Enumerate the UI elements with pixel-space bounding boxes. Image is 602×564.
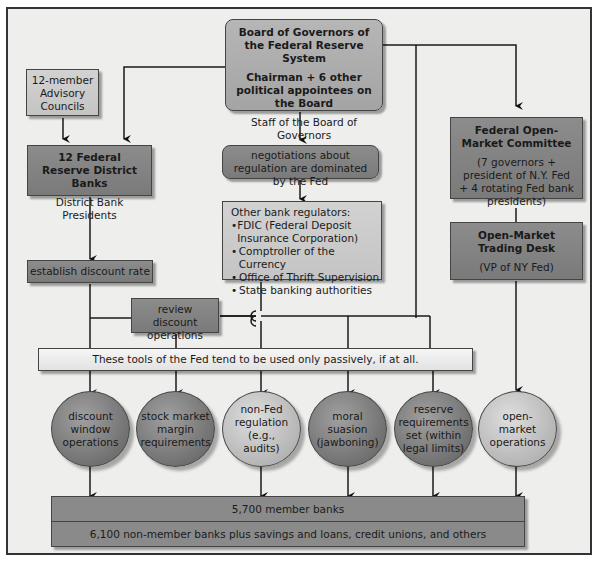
advisory-label: 12-member Advisory Councils	[32, 74, 94, 112]
negotiations-box: negotiations about regulation are domina…	[222, 145, 379, 179]
tool-discount-window: discount window operations	[51, 391, 130, 467]
advisory-councils-box: 12-member Advisory Councils	[26, 69, 99, 116]
bullet-icon: •	[231, 245, 239, 271]
district-banks-title: 12 Federal Reserve District Banks	[28, 151, 151, 190]
district-banks-box: 12 Federal Reserve District Banks Distri…	[27, 145, 152, 196]
other-regulators-title: Other bank regulators:	[231, 206, 381, 219]
trading-desk-title: Open-Market Trading Desk	[451, 229, 582, 255]
district-banks-subtitle: District Bank Presidents	[28, 196, 151, 222]
tool-stock-margin: stock market margin requirements	[136, 391, 215, 467]
review-discount-operations-box: review discount operations	[131, 298, 219, 333]
passive-note-label: These tools of the Fed tend to be used o…	[92, 353, 418, 365]
board-of-governors-box: Board of Governors of the Federal Reserv…	[225, 19, 383, 111]
trading-desk-box: Open-Market Trading Desk (VP of NY Fed)	[450, 222, 583, 280]
tool-non-fed-regulation: non-Fed regulation (e.g., audits)	[222, 391, 301, 467]
bullet-icon: •	[231, 271, 239, 284]
discount-rate-label: establish discount rate	[30, 265, 150, 277]
regulator-item: •Comptroller of the Currency	[231, 245, 381, 271]
trading-desk-subtitle: (VP of NY Fed)	[451, 261, 582, 274]
negotiations-label: negotiations about regulation are domina…	[223, 149, 378, 188]
other-regulators-box: Other bank regulators: •FDIC (Federal De…	[222, 201, 382, 280]
non-member-banks-row: 6,100 non-member banks plus savings and …	[52, 522, 524, 547]
board-title: Board of Governors of the Federal Reserv…	[226, 26, 382, 65]
board-staff: Staff of the Board of Governors	[226, 116, 382, 142]
tool-moral-suasion: moral suasion (jawboning)	[308, 391, 387, 467]
passive-tools-note: These tools of the Fed tend to be used o…	[38, 348, 473, 371]
board-members: Chairman + 6 other political appointees …	[226, 71, 382, 110]
banks-box: 5,700 member banks 6,100 non-member bank…	[51, 496, 525, 547]
tool-open-market-operations: open-market operations	[478, 391, 557, 467]
fomc-title: Federal Open-Market Committee	[451, 124, 582, 150]
regulator-item: •State banking authorities	[231, 284, 381, 297]
establish-discount-rate-box: establish discount rate	[27, 260, 153, 283]
member-banks-row: 5,700 member banks	[52, 497, 524, 522]
fomc-box: Federal Open-Market Committee (7 governo…	[450, 117, 583, 199]
tool-reserve-requirements: reserve requirements set (within legal l…	[394, 391, 473, 467]
bullet-icon: •	[231, 284, 239, 297]
regulator-item: •Office of Thrift Supervision	[231, 271, 381, 284]
review-discount-label: review discount operations	[132, 303, 218, 342]
fomc-subtitle: (7 governors + president of N.Y. Fed + 4…	[451, 156, 582, 208]
regulator-item: •FDIC (Federal Deposit Insurance Corpora…	[231, 219, 381, 245]
